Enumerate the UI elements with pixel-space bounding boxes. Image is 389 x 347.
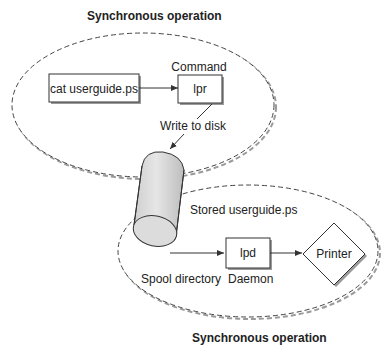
lpd-node-label: lpd (240, 246, 256, 260)
printer-label: Printer (316, 247, 351, 261)
diagram-canvas: Synchronous operation Synchronous operat… (0, 0, 389, 347)
daemon-label: Daemon (228, 272, 273, 286)
bottom-group-title: Synchronous operation (192, 331, 327, 345)
lpr-node[interactable]: lpr (178, 75, 224, 105)
spool-directory-label: Spool directory (141, 272, 221, 286)
lpd-node[interactable]: lpd (226, 238, 272, 270)
source-node-label: cat userguide.ps (50, 82, 138, 96)
top-group-title: Synchronous operation (87, 9, 222, 23)
storage-label: Stored userguide.ps (190, 203, 297, 217)
command-label: Command (171, 60, 226, 74)
lpr-node-label: lpr (193, 82, 206, 96)
source-node[interactable]: cat userguide.ps (49, 74, 141, 104)
write-to-disk-label: Write to disk (160, 119, 227, 133)
top-group-boundary (12, 33, 276, 179)
